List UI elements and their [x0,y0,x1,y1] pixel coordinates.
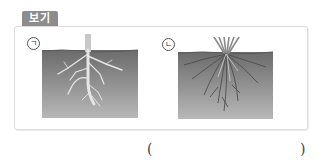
taproot-image [42,34,138,118]
bogi-badge: 보기 [22,11,58,26]
answer-paren-close: ) [300,141,305,157]
fibrous-root-image [178,37,273,119]
marker-giyeok: ㄱ [27,37,40,50]
answer-blank[interactable] [158,140,296,158]
marker-nieun: ㄴ [162,38,175,51]
answer-paren-open: ( [147,141,152,157]
